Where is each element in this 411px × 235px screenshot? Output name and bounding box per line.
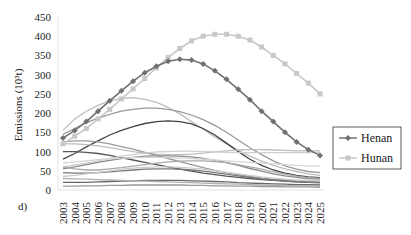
emissions-line-chart: Emissions (10³t) 05010015020025030035040…: [0, 0, 411, 235]
hunan-point: [236, 34, 241, 39]
x-tick-label: 2012: [162, 202, 174, 224]
hunan-point: [224, 32, 229, 37]
x-tick-label: 2003: [57, 202, 69, 225]
x-tick-label: 2007: [104, 202, 116, 225]
hunan-marker-icon: [346, 156, 351, 161]
other-provinces-lines: [63, 98, 320, 188]
henan-point: [177, 56, 183, 62]
hunan-point: [119, 96, 124, 101]
hunan-point: [318, 91, 323, 96]
hunan-point: [189, 38, 194, 43]
hunan-point: [201, 34, 206, 39]
hunan-point: [294, 71, 299, 76]
hunan-point: [177, 46, 182, 51]
henan-point: [189, 57, 195, 63]
x-tick-label: 2010: [139, 202, 151, 225]
y-tick-label: 300: [35, 69, 52, 81]
x-tick-label: 2025: [314, 202, 326, 225]
hunan-point: [96, 116, 101, 121]
x-tick-label: 2023: [291, 202, 303, 225]
x-tick-label: 2009: [127, 202, 139, 225]
x-tick-label: 2011: [150, 202, 162, 224]
hunan-point: [212, 32, 217, 37]
hunan-point: [142, 76, 147, 81]
x-tick-label: 2020: [256, 202, 268, 225]
henan-line: [63, 59, 320, 155]
x-tick-label: 2015: [197, 202, 209, 225]
x-tick-label: 2005: [80, 202, 92, 225]
hunan-line: [63, 34, 320, 144]
hunan-point: [306, 81, 311, 86]
y-tick-label: 400: [35, 30, 52, 42]
panel-label: d): [18, 200, 28, 213]
x-tick-label: 2019: [244, 202, 256, 225]
x-tick-label: 2008: [115, 202, 127, 225]
legend-hunan-label: Hunan: [361, 151, 393, 165]
y-tick-label: 100: [35, 146, 52, 158]
hunan-point: [259, 44, 264, 49]
y-tick-label: 450: [35, 11, 52, 23]
hunan-point: [61, 141, 66, 146]
legend-henan-label: Henan: [361, 131, 392, 145]
hunan-point: [72, 134, 77, 139]
hunan-point: [247, 38, 252, 43]
y-axis-ticks: 050100150200250300350400450: [35, 11, 52, 196]
y-tick-label: 150: [35, 126, 52, 138]
x-tick-label: 2004: [69, 202, 81, 225]
x-tick-label: 2017: [221, 202, 233, 225]
x-tick-label: 2022: [279, 202, 291, 224]
province-line: [63, 108, 320, 173]
hunan-point: [107, 107, 112, 112]
y-tick-label: 350: [35, 49, 52, 61]
x-tick-label: 2016: [209, 202, 221, 225]
y-tick-label: 50: [40, 165, 52, 177]
x-tick-label: 2014: [186, 202, 198, 225]
x-tick-label: 2013: [174, 202, 186, 225]
x-tick-label: 2024: [302, 202, 314, 225]
y-tick-label: 0: [46, 184, 52, 196]
x-tick-label: 2006: [92, 202, 104, 225]
x-tick-label: 2021: [267, 202, 279, 224]
hunan-point: [84, 126, 89, 131]
y-tick-label: 200: [35, 107, 52, 119]
hunan-point: [131, 86, 136, 91]
hunan-point: [271, 53, 276, 58]
legend: Henan Hunan: [333, 127, 401, 169]
y-axis-label: Emissions (10³t): [12, 68, 25, 141]
y-tick-label: 250: [35, 88, 52, 100]
hunan-point: [282, 61, 287, 66]
x-tick-label: 2018: [232, 202, 244, 225]
x-axis-ticks: 2003200420052006200720082009201020112012…: [57, 202, 326, 225]
